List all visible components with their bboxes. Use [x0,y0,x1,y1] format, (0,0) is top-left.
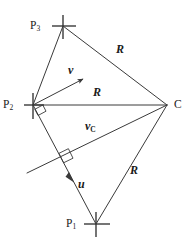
point-label-p3: P3 [30,20,40,32]
vector-v-arrow [33,79,83,105]
point-label-p1: P1 [66,218,76,230]
point-label-p3-sub: 3 [36,24,40,33]
point-label-p2-sub: 2 [9,103,13,112]
point-marker-p1 [84,212,110,237]
length-label-r-top: R [116,43,124,55]
right-angle-marker-foot [59,149,73,163]
geometry-diagram: P3 P2 C P1 v u vC R R R [0,0,191,243]
point-label-c: C [174,99,182,111]
right-angle-marker-p2 [35,105,46,116]
vector-label-u: u [78,178,85,190]
vector-label-vc-sub: C [90,125,95,134]
point-label-p1-sub: 1 [72,222,76,231]
length-label-r-middle: R [93,86,101,98]
segment-p3-p2 [33,26,63,105]
length-label-r-bottom: R [130,164,138,176]
vector-label-v-text: v [68,63,73,77]
vector-label-v: v [68,64,73,76]
point-label-p2: P2 [3,99,13,111]
vector-vc-line [27,105,167,173]
point-label-c-text: C [174,98,182,110]
vector-label-vc: vC [85,120,96,132]
vector-label-u-text: u [78,177,85,191]
segment-p3-c [63,26,167,105]
